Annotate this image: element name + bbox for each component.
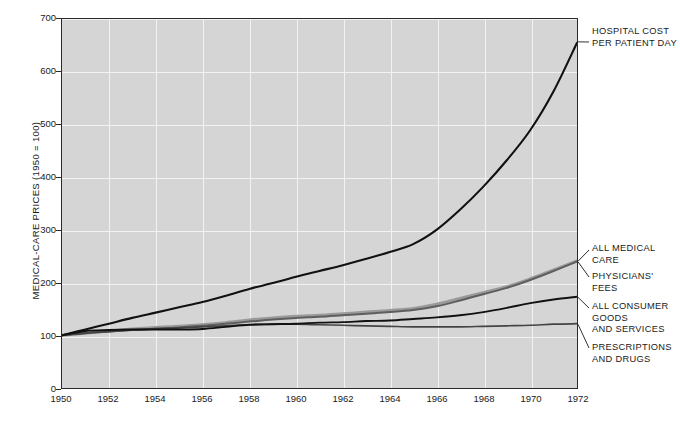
x-tick-label: 1968 [462, 394, 506, 404]
x-tick-label: 1950 [39, 394, 83, 404]
x-tick-label: 1956 [180, 394, 224, 404]
y-tick-label: 500 [16, 119, 56, 129]
y-tick-label: 700 [16, 13, 56, 23]
x-tick-label: 1972 [556, 394, 600, 404]
x-tick-label: 1952 [86, 394, 130, 404]
medical-care-prices-chart: MEDICAL-CARE PRICES (1950 = 100) 0100200… [0, 0, 680, 435]
leader-line [578, 324, 589, 348]
x-tick-label: 1966 [415, 394, 459, 404]
plot-area [61, 18, 578, 389]
x-tick-label: 1970 [509, 394, 553, 404]
leader-line [578, 262, 589, 277]
y-tick-label: 400 [16, 172, 56, 182]
annotation-physicians-fees: PHYSICIANS' FEES [592, 271, 680, 294]
series-line [62, 43, 577, 336]
x-tick-label: 1962 [321, 394, 365, 404]
x-tick-label: 1960 [274, 394, 318, 404]
x-tick-label: 1964 [368, 394, 412, 404]
annotation-all-medical-care: ALL MEDICAL CARE [592, 243, 680, 266]
y-tick-label: 100 [16, 331, 56, 341]
leader-line [578, 250, 589, 261]
leader-line [578, 297, 589, 308]
series-lines [62, 19, 577, 388]
annotation-all-consumer-goods: ALL CONSUMER GOODS AND SERVICES [592, 301, 669, 336]
annotation-prescriptions-and-drugs: PRESCRIPTIONS AND DRUGS [592, 342, 672, 365]
y-tick-label: 200 [16, 278, 56, 288]
y-tick-mark [56, 389, 61, 390]
annotation-hospital-cost: HOSPITAL COST PER PATIENT DAY [592, 26, 677, 49]
x-tick-label: 1958 [227, 394, 271, 404]
y-tick-label: 300 [16, 225, 56, 235]
x-tick-label: 1954 [133, 394, 177, 404]
y-tick-label: 600 [16, 66, 56, 76]
